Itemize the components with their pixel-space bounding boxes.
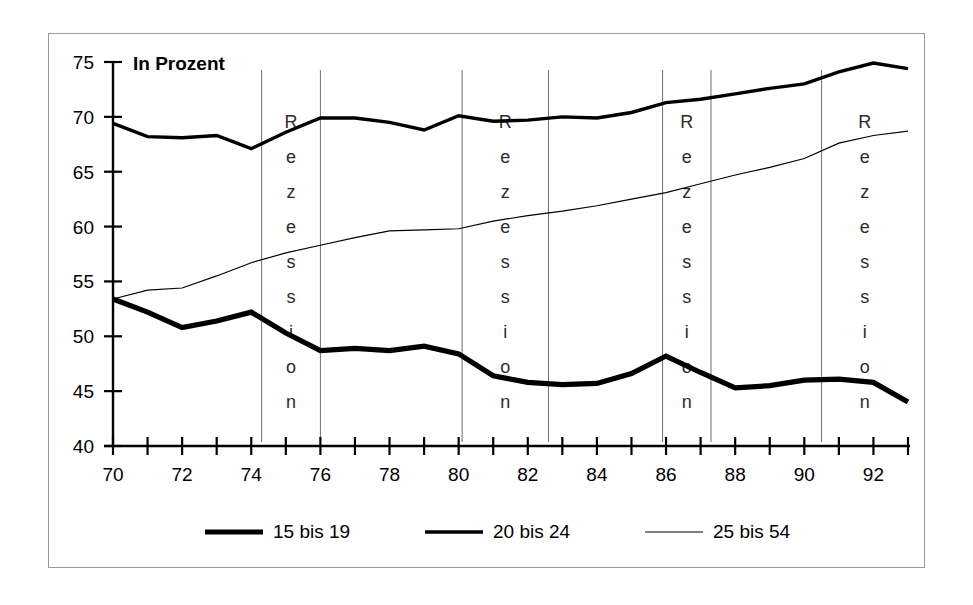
x-axis-tick-label: 84 (586, 464, 608, 485)
recession-label-letter: e (286, 147, 296, 167)
y-axis-tick-label: 40 (73, 436, 94, 457)
y-axis-tick-label: 50 (73, 326, 94, 347)
recession-label-letter: i (863, 322, 867, 342)
x-axis-tick-label: 88 (725, 464, 746, 485)
legend-label: 20 bis 24 (493, 521, 571, 542)
recession-label-letter: R (858, 112, 871, 132)
recession-label-letter: e (286, 217, 296, 237)
y-axis-tick-label: 45 (73, 381, 94, 402)
line-chart: RezessionRezessionRezessionRezession4045… (0, 0, 973, 605)
recession-label-letter: e (500, 147, 510, 167)
x-axis-tick-label: 80 (448, 464, 469, 485)
recession-label-letter: z (860, 182, 869, 202)
legend-label: 15 bis 19 (273, 521, 350, 542)
recession-label-letter: z (501, 182, 510, 202)
y-axis-tick-label: 75 (73, 52, 94, 73)
series-line-20-bis-24 (113, 63, 908, 149)
x-axis-tick-label: 78 (379, 464, 400, 485)
x-axis-tick-label: 86 (655, 464, 676, 485)
axis-unit-note: In Prozent (133, 53, 226, 74)
recession-label-letter: e (860, 147, 870, 167)
recession-label-letter: s (287, 287, 296, 307)
chart-legend: 15 bis 1920 bis 2425 bis 54 (205, 521, 791, 542)
series-line-25-bis-54 (113, 131, 908, 299)
x-axis-tick-label: 90 (794, 464, 815, 485)
recession-label-letter: s (682, 252, 691, 272)
recession-label-letter: e (682, 147, 692, 167)
recession-label-letter: s (287, 252, 296, 272)
recession-label-letter: o (286, 357, 296, 377)
recession-label-letter: s (860, 252, 869, 272)
y-axis-tick-label: 70 (73, 107, 94, 128)
recession-label-letter: n (286, 392, 296, 412)
x-axis-tick-label: 74 (241, 464, 263, 485)
recession-label-letter: s (860, 287, 869, 307)
x-axis-tick-label: 92 (863, 464, 884, 485)
recession-label-letter: e (682, 217, 692, 237)
y-axis-tick-label: 60 (73, 217, 94, 238)
recession-label-letter: n (500, 392, 510, 412)
recession-label-letter: z (287, 182, 296, 202)
recession-label-letter: i (685, 322, 689, 342)
recession-label-letter: s (501, 252, 510, 272)
legend-label: 25 bis 54 (713, 521, 791, 542)
recession-label-letter: o (500, 357, 510, 377)
x-axis-tick-label: 76 (310, 464, 331, 485)
series-line-15-bis-19 (113, 299, 908, 402)
recession-label-letter: s (682, 287, 691, 307)
recession-label-letter: e (860, 217, 870, 237)
recession-label-letter: o (860, 357, 870, 377)
recession-label-letter: n (860, 392, 870, 412)
recession-label: Rezession (499, 112, 512, 412)
y-axis-tick-label: 65 (73, 162, 94, 183)
x-axis-tick-label: 72 (172, 464, 193, 485)
recession-label: Rezession (285, 112, 298, 412)
recession-label-letter: s (501, 287, 510, 307)
recession-label-letter: z (682, 182, 691, 202)
figure-root: RezessionRezessionRezessionRezession4045… (0, 0, 973, 605)
y-axis-tick-label: 55 (73, 271, 94, 292)
recession-label-letter: i (503, 322, 507, 342)
x-axis-tick-label: 70 (102, 464, 123, 485)
recession-label-letter: R (680, 112, 693, 132)
x-axis-tick-label: 82 (517, 464, 538, 485)
recession-label-letter: n (682, 392, 692, 412)
recession-label: Rezession (858, 112, 871, 412)
